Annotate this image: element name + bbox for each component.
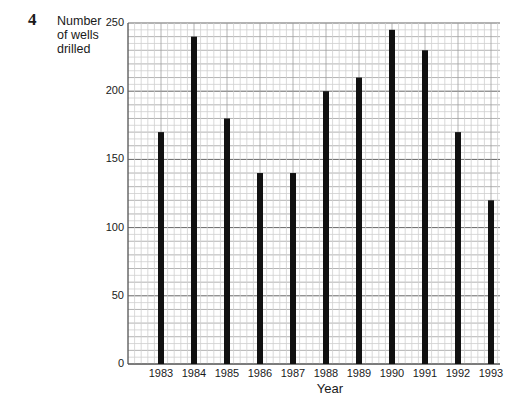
y-tick-label: 100 (94, 221, 124, 233)
bar-1985 (224, 118, 230, 364)
bar-1987 (290, 173, 296, 364)
y-tick-label: 50 (94, 289, 124, 301)
y-tick-label: 0 (94, 357, 124, 369)
bar-1986 (257, 173, 263, 364)
bar-1991 (422, 50, 428, 364)
x-tick-label: 1993 (474, 367, 508, 379)
y-tick-label: 200 (94, 84, 124, 96)
x-tick-label: 1992 (441, 367, 475, 379)
x-tick-label: 1989 (342, 367, 376, 379)
x-tick-label: 1990 (375, 367, 409, 379)
y-tick-label: 150 (94, 152, 124, 164)
y-tick-label: 250 (94, 16, 124, 28)
bar-1988 (323, 91, 329, 364)
bar-1989 (356, 78, 362, 364)
bar-1983 (158, 132, 164, 364)
bar-chart (0, 0, 530, 399)
chart-grid (128, 23, 500, 364)
x-axis-label: Year (300, 381, 360, 396)
x-tick-label: 1984 (177, 367, 211, 379)
bar-1992 (455, 132, 461, 364)
bar-1993 (488, 200, 494, 364)
x-tick-label: 1991 (408, 367, 442, 379)
x-tick-label: 1983 (144, 367, 178, 379)
bar-1984 (191, 37, 197, 364)
x-tick-label: 1985 (210, 367, 244, 379)
x-tick-label: 1986 (243, 367, 277, 379)
x-tick-label: 1988 (309, 367, 343, 379)
bar-1990 (389, 30, 395, 364)
x-tick-label: 1987 (276, 367, 310, 379)
